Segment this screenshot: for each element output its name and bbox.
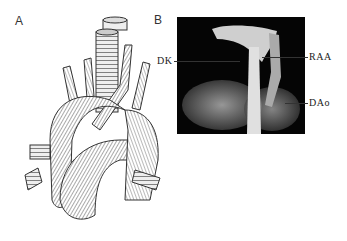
heart-illustration — [0, 0, 175, 241]
annotation-raa: RAA — [309, 51, 332, 62]
ct-volume-rendering — [177, 17, 305, 134]
raa-leader-line — [262, 57, 308, 58]
annotation-dk: DK — [157, 55, 172, 66]
dk-leader-line — [174, 61, 240, 62]
dao-leader-line — [285, 103, 308, 104]
annotation-dao: DAo — [309, 97, 330, 108]
aortic-arch — [25, 96, 160, 219]
